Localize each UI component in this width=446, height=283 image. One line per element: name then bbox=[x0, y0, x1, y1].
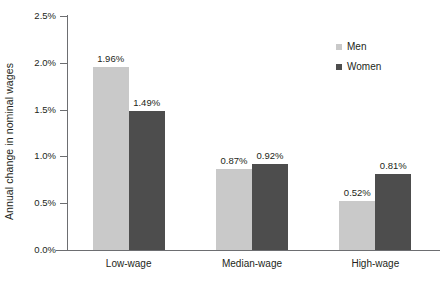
y-axis-tick-label: 1.5% bbox=[20, 104, 56, 115]
y-axis-tick-label: 1.0% bbox=[20, 150, 56, 161]
x-axis-label-low-wage: Low-wage bbox=[69, 258, 189, 269]
y-axis-tick-label: 2.5% bbox=[20, 10, 56, 21]
bar-value-label: 0.81% bbox=[368, 160, 418, 171]
bar-value-label: 0.92% bbox=[245, 150, 295, 161]
bar-median-wage-women bbox=[252, 164, 288, 250]
bar-low-wage-women bbox=[129, 111, 165, 250]
bar-value-label: 1.49% bbox=[122, 97, 172, 108]
y-axis-tick bbox=[60, 16, 67, 17]
y-axis-tick bbox=[60, 63, 67, 64]
bar-value-label: 1.96% bbox=[86, 53, 136, 64]
bar-high-wage-men bbox=[339, 201, 375, 250]
legend-swatch-icon bbox=[336, 64, 342, 70]
legend-item-men[interactable]: Men bbox=[336, 38, 381, 54]
y-axis-tick bbox=[60, 156, 67, 157]
bar-median-wage-men bbox=[216, 169, 252, 250]
y-axis-tick bbox=[60, 250, 67, 251]
legend: MenWomen bbox=[336, 38, 381, 78]
y-axis-tick bbox=[60, 110, 67, 111]
x-axis-line bbox=[56, 250, 440, 251]
y-axis-tick bbox=[60, 203, 67, 204]
legend-label: Men bbox=[347, 41, 366, 52]
y-axis-tick-label: 0.5% bbox=[20, 197, 56, 208]
plot-area: 1.96%1.49%0.87%0.92%0.52%0.81% bbox=[67, 16, 437, 250]
bar-chart: Annual change in nominal wages 0.0%0.5%1… bbox=[0, 0, 446, 283]
y-axis-tick-label: 2.0% bbox=[20, 57, 56, 68]
x-axis-label-median-wage: Median-wage bbox=[192, 258, 312, 269]
legend-swatch-icon bbox=[336, 44, 342, 50]
bar-high-wage-women bbox=[375, 174, 411, 250]
y-axis-title: Annual change in nominal wages bbox=[0, 0, 18, 283]
bar-low-wage-men bbox=[93, 67, 129, 250]
legend-label: Women bbox=[347, 61, 381, 72]
y-axis-tick-label: 0.0% bbox=[20, 244, 56, 255]
legend-item-women[interactable]: Women bbox=[336, 58, 381, 74]
x-axis-label-high-wage: High-wage bbox=[315, 258, 435, 269]
